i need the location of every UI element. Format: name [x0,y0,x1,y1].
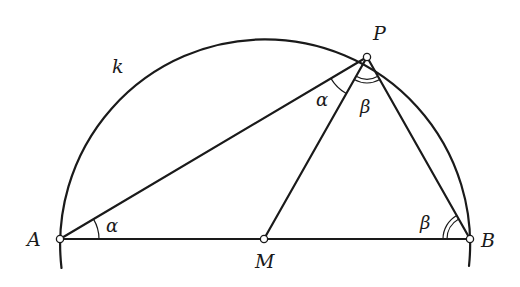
label-point-P: P [372,22,387,44]
angle-alpha-A-arc [94,219,100,239]
segment-BP [367,57,470,239]
thales-diagram: k A B M P α α β β [0,0,520,287]
point-P [363,53,370,60]
point-B [466,235,473,242]
label-point-M: M [254,250,275,272]
label-angle-beta-P: β [359,96,370,117]
angle-beta-P-arc-outer [354,80,380,83]
point-M [260,235,267,242]
label-point-A: A [25,228,41,250]
angle-alpha-P-arc [331,78,346,93]
label-circle-k: k [112,55,124,77]
label-angle-alpha-A: α [106,215,118,236]
label-angle-alpha-P: α [316,89,328,110]
label-point-B: B [480,229,495,251]
point-A [56,235,63,242]
angle-beta-P-arc-inner [356,76,378,79]
segment-AP [60,57,367,239]
segment-MP [264,57,367,239]
label-angle-beta-B: β [419,212,430,233]
